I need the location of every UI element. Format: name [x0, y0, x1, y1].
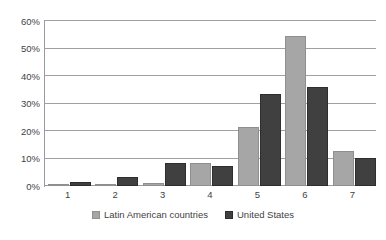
y-tick-label: 10%	[0, 154, 40, 164]
bar[interactable]	[355, 158, 376, 186]
x-tick-label: 7	[327, 188, 377, 202]
y-tick-label: 40%	[0, 72, 40, 82]
y-axis-tick-labels: 0%10%20%30%40%50%60%	[0, 21, 40, 186]
y-tick-label: 30%	[0, 99, 40, 109]
legend-swatch-icon	[92, 211, 100, 219]
chart-legend: Latin American countriesUnited States	[0, 210, 386, 220]
x-tick-label: 3	[138, 188, 188, 202]
x-tick-label: 1	[43, 188, 93, 202]
bar-group	[44, 21, 91, 186]
x-tick-label: 5	[232, 188, 282, 202]
legend-label: Latin American countries	[104, 210, 208, 220]
bar[interactable]	[285, 36, 306, 186]
bar[interactable]	[333, 151, 354, 186]
bar[interactable]	[260, 94, 281, 186]
bar[interactable]	[70, 182, 91, 186]
bar-group	[139, 21, 186, 186]
x-tick-label: 4	[185, 188, 235, 202]
bar[interactable]	[307, 87, 328, 186]
x-tick-label: 6	[280, 188, 330, 202]
legend-entry[interactable]: United States	[225, 210, 294, 220]
bar-group	[329, 21, 376, 186]
bar[interactable]	[143, 183, 164, 186]
bar-group	[234, 21, 281, 186]
x-axis-tick-labels: 1234567	[44, 188, 376, 204]
bar[interactable]	[165, 163, 186, 186]
y-tick-label: 0%	[0, 182, 40, 192]
legend-entry[interactable]: Latin American countries	[92, 210, 208, 220]
bar[interactable]	[190, 163, 211, 186]
bar-chart: 0%10%20%30%40%50%60% 1234567 Latin Ameri…	[0, 0, 386, 240]
bar-group	[91, 21, 138, 186]
x-tick-label: 2	[90, 188, 140, 202]
legend-label: United States	[237, 210, 294, 220]
y-tick-label: 60%	[0, 17, 40, 27]
bar[interactable]	[212, 166, 233, 186]
bar-group	[281, 21, 328, 186]
bar[interactable]	[95, 184, 116, 186]
bar-group	[186, 21, 233, 186]
y-tick-label: 50%	[0, 44, 40, 54]
bar[interactable]	[238, 127, 259, 186]
bar[interactable]	[48, 184, 69, 186]
bar[interactable]	[117, 177, 138, 186]
legend-swatch-icon	[225, 211, 233, 219]
plot-area	[44, 21, 376, 186]
y-tick-label: 20%	[0, 127, 40, 137]
